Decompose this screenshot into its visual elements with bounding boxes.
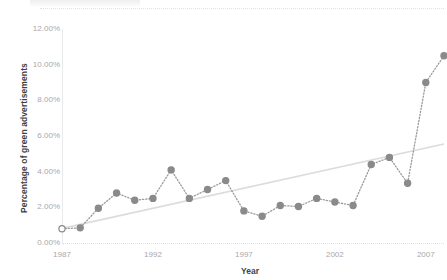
data-point-marker [259, 213, 265, 219]
data-point-marker [405, 180, 411, 186]
data-point-marker [77, 225, 83, 231]
data-point-marker [441, 53, 447, 59]
data-point-marker [386, 154, 392, 160]
plot-area [0, 0, 447, 280]
data-point-marker [168, 167, 174, 173]
data-point-marker [132, 197, 138, 203]
data-series-line [62, 56, 444, 229]
data-point-marker [113, 190, 119, 196]
data-point-marker [277, 202, 283, 208]
data-point-markers [59, 53, 447, 232]
data-point-marker [241, 208, 247, 214]
data-point-marker [150, 195, 156, 201]
data-point-marker [314, 195, 320, 201]
data-point-marker [186, 195, 192, 201]
data-point-marker [332, 199, 338, 205]
data-point-marker [95, 205, 101, 211]
chart-container: Percentage of green advertisements Year … [0, 0, 447, 280]
data-point-marker [368, 161, 374, 167]
data-point-marker [204, 186, 210, 192]
data-point-marker [350, 202, 356, 208]
data-point-marker [423, 79, 429, 85]
data-point-marker [295, 203, 301, 209]
data-point-marker [59, 226, 65, 232]
data-point-marker [223, 177, 229, 183]
